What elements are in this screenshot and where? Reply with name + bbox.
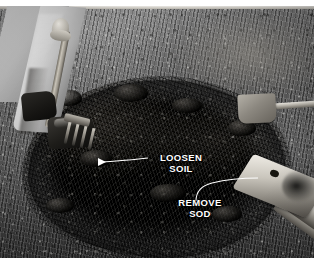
callout-label-remove-sod: REMOVE SOD bbox=[170, 198, 230, 219]
instructional-photo: LOOSEN SOIL REMOVE SOD bbox=[0, 6, 314, 258]
callout-label-loosen-soil: LOOSEN SOIL bbox=[151, 153, 211, 174]
photo-vignette bbox=[0, 6, 314, 258]
screenshot-root: LOOSEN SOIL REMOVE SOD bbox=[0, 0, 326, 267]
